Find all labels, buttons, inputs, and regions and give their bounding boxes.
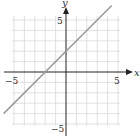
y-tick-label-neg5: −5	[51, 124, 65, 134]
y-axis-arrow-icon	[63, 7, 69, 14]
x-axis-label: x	[134, 67, 140, 78]
y-axis-label: y	[61, 0, 68, 8]
y-tick-label-5: 5	[57, 16, 63, 26]
x-tick-label-neg5: −5	[5, 76, 19, 86]
x-axis-arrow-icon	[126, 69, 133, 75]
x-tick-label-5: 5	[114, 76, 120, 86]
line-graph: x y −5 5 5 −5	[0, 0, 140, 139]
